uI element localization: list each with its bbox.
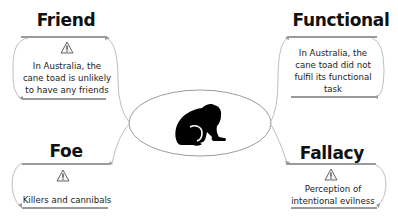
node-text-friend: In Australia, the cane toad is unlikely … xyxy=(14,60,120,96)
divider-friend xyxy=(21,36,107,38)
node-title-friend: Friend xyxy=(18,10,114,30)
divider-functional-bottom xyxy=(291,96,377,98)
divider-fallacy xyxy=(286,163,376,165)
warning-icon xyxy=(56,169,70,182)
divider-foe xyxy=(22,163,110,165)
mind-map: Friend In Australia, the cane toad is un… xyxy=(0,0,398,218)
node-text-foe: Killers and cannibals xyxy=(14,194,120,206)
divider-fallacy-bottom xyxy=(291,207,377,209)
node-text-fallacy: Perception of intentional evilness xyxy=(286,183,380,207)
warning-icon xyxy=(60,41,74,54)
toad-silhouette-icon xyxy=(175,104,226,146)
node-text-functional: In Australia, the cane toad did not fulf… xyxy=(288,47,378,95)
node-title-fallacy: Fallacy xyxy=(290,143,374,163)
divider-friend-bottom xyxy=(22,98,106,100)
divider-foe-bottom xyxy=(22,207,108,209)
divider-functional xyxy=(287,36,377,38)
node-title-functional: Functional xyxy=(285,10,397,30)
warning-icon xyxy=(324,168,338,181)
node-title-foe: Foe xyxy=(28,141,104,161)
